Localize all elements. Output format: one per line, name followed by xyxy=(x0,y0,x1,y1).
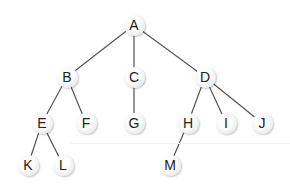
node-label: L xyxy=(59,158,67,172)
node-label: C xyxy=(129,70,139,84)
node-label: F xyxy=(82,116,91,130)
divider-line xyxy=(70,143,290,144)
node-label: I xyxy=(224,116,228,130)
node-label: M xyxy=(164,158,176,172)
tree-node-i: I xyxy=(216,113,237,134)
node-label: K xyxy=(23,158,32,172)
node-label: G xyxy=(129,116,140,130)
tree-node-l: L xyxy=(53,155,74,176)
tree-node-h: H xyxy=(178,113,199,134)
tree-node-m: M xyxy=(160,155,181,176)
tree-node-a: A xyxy=(124,15,145,36)
node-label: D xyxy=(200,70,210,84)
tree-node-k: K xyxy=(18,155,39,176)
tree-node-d: D xyxy=(195,67,216,88)
tree-diagram: A B C D E F G H I J K L M xyxy=(0,0,290,186)
node-label: E xyxy=(37,116,46,130)
node-label: A xyxy=(129,18,138,32)
tree-edges xyxy=(0,0,290,186)
edge-a-d xyxy=(134,25,205,77)
tree-node-e: E xyxy=(32,113,53,134)
node-label: B xyxy=(62,70,71,84)
tree-node-f: F xyxy=(76,113,97,134)
tree-node-j: J xyxy=(252,113,273,134)
tree-node-b: B xyxy=(57,67,78,88)
tree-node-c: C xyxy=(124,67,145,88)
tree-node-g: G xyxy=(124,113,145,134)
node-label: H xyxy=(183,116,193,130)
edge-a-b xyxy=(67,25,134,77)
node-label: J xyxy=(259,116,266,130)
